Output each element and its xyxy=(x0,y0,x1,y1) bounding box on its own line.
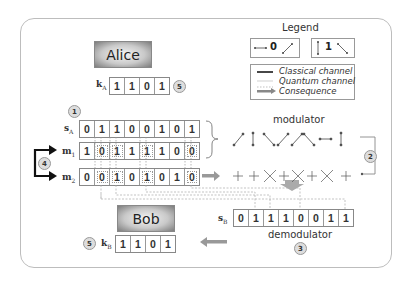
legend-classical-label: Classical channel xyxy=(279,66,352,76)
bit: 1 xyxy=(339,210,353,226)
modulator-label: modulator xyxy=(273,114,325,125)
consequence-arrow-icon xyxy=(202,171,220,181)
legend-bit1-value: 1 xyxy=(325,41,332,52)
left-arrow-icon xyxy=(200,237,227,247)
legend-bit0-box: 0 xyxy=(250,38,300,58)
brace-icon xyxy=(206,121,218,158)
s-b-label: sB xyxy=(218,213,228,225)
bit: 0 xyxy=(294,210,309,226)
bob-s-bits: 0 1 1 1 0 0 1 1 xyxy=(233,209,354,227)
bit: 1 xyxy=(264,210,279,226)
bit: 1 xyxy=(131,236,146,252)
bit: 1 xyxy=(279,210,294,226)
bob-label: Bob xyxy=(132,211,159,227)
bob-key-bits: 1 1 0 1 xyxy=(115,235,176,253)
bit: 0 xyxy=(146,236,161,252)
bit: 1 xyxy=(116,236,131,252)
bit: 1 xyxy=(324,210,339,226)
legend-consequence-label: Consequence xyxy=(279,86,336,96)
step-2-badge: 2 xyxy=(364,150,377,163)
legend-bit1-box: 1 xyxy=(311,38,355,58)
bit: 1 xyxy=(161,236,175,252)
demodulator-label: demodulator xyxy=(268,229,332,240)
legend-bit0-value: 0 xyxy=(270,41,277,52)
bit: 1 xyxy=(249,210,264,226)
measurement-bases-icon xyxy=(232,166,360,186)
bit: 0 xyxy=(309,210,324,226)
step-4-badge: 4 xyxy=(38,157,51,170)
step-3-badge: 3 xyxy=(294,242,307,255)
modulator-states-icon xyxy=(232,129,360,149)
legend-bit1-icon xyxy=(312,39,354,57)
legend-quantum-label: Quantum channel xyxy=(279,76,355,86)
bit: 0 xyxy=(234,210,249,226)
bob-box: Bob xyxy=(117,205,175,232)
bob-key-label: kB xyxy=(101,238,112,250)
step-5-bob-badge: 5 xyxy=(83,237,96,250)
legend-title: Legend xyxy=(282,22,319,33)
